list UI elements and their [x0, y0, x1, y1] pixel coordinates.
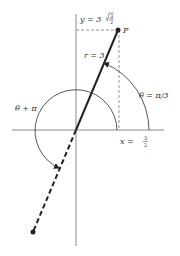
theta-label: θ = π/3 — [139, 91, 169, 100]
y-coordinate-label: y = 3 3 2 — [79, 13, 114, 26]
polar-diagram: P r = 3 θ = π/3 θ + π x = 3 2 y = 3 3 2 — [0, 0, 180, 256]
ray-to-p — [76, 30, 118, 130]
svg-text:x =: x = — [120, 137, 134, 146]
point-p-label: P — [122, 26, 129, 35]
svg-text:3: 3 — [144, 135, 147, 141]
svg-text:2: 2 — [144, 142, 147, 148]
opposite-ray-dashed — [33, 130, 76, 232]
svg-text:2: 2 — [110, 19, 113, 25]
x-coordinate-label: x = 3 2 — [120, 135, 148, 148]
svg-text:3: 3 — [110, 13, 113, 19]
theta-plus-pi-label: θ + π — [15, 104, 38, 113]
point-p — [116, 28, 121, 33]
opposite-point — [31, 230, 36, 235]
svg-text:y = 3: y = 3 — [79, 15, 101, 24]
radius-label: r = 3 — [84, 51, 105, 60]
